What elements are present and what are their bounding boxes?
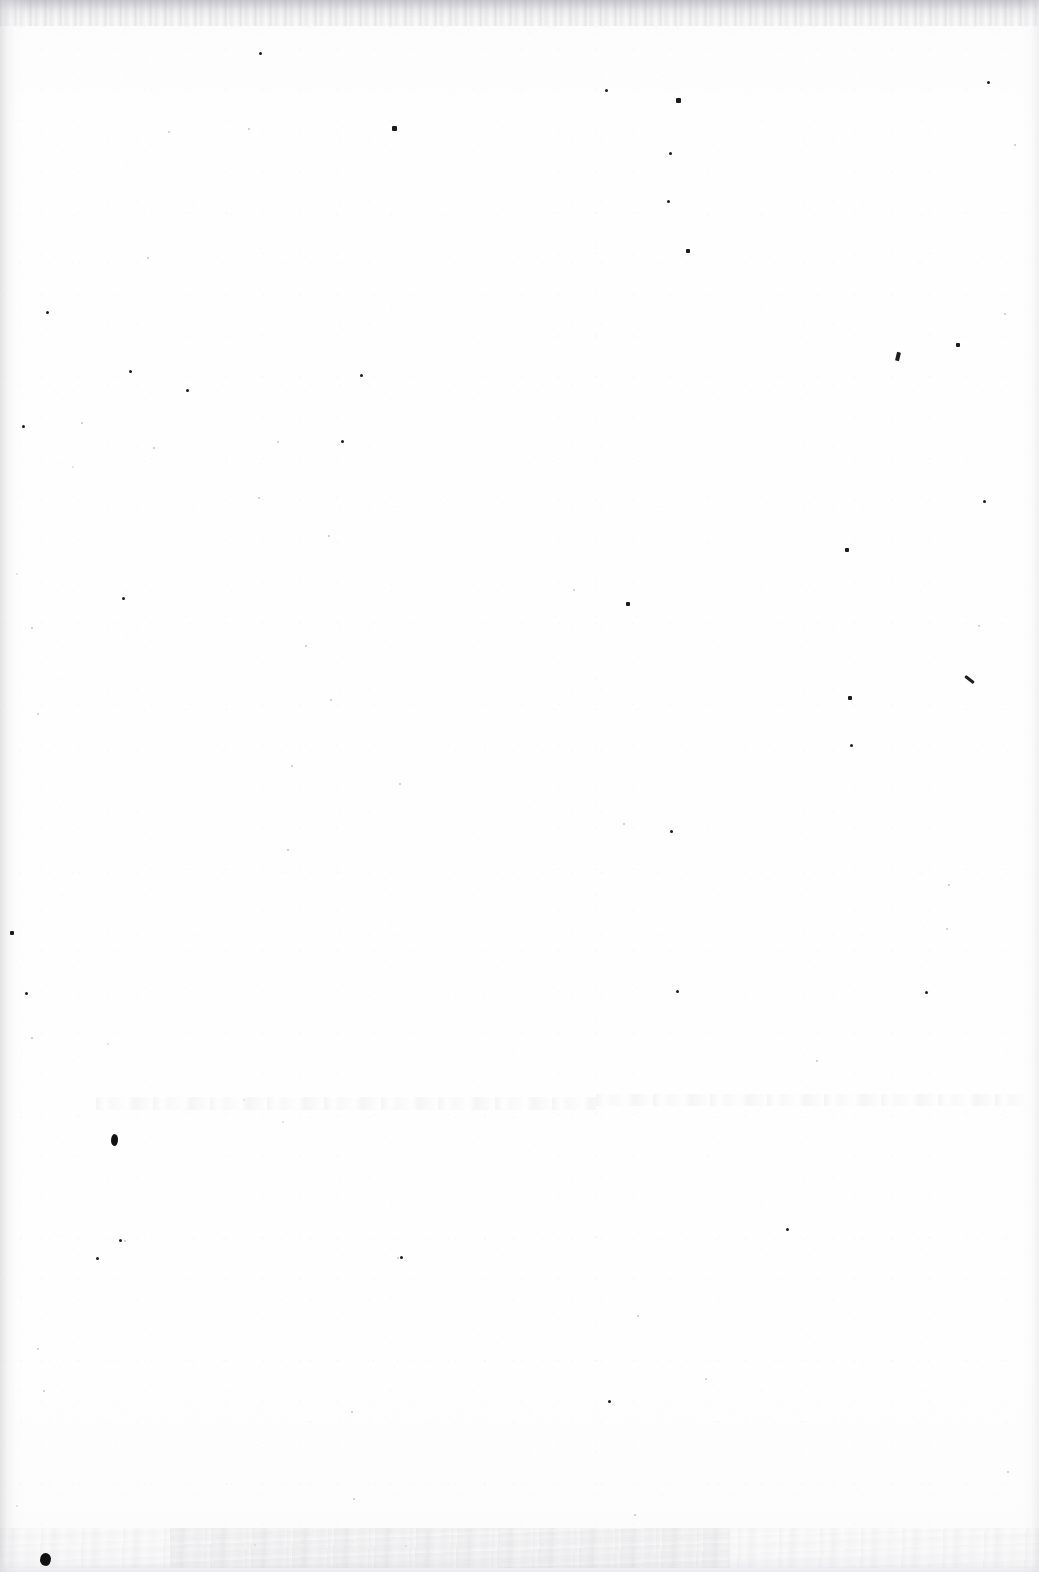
stain-band	[170, 1528, 730, 1568]
dust-speck	[623, 823, 625, 825]
dust-speck	[46, 311, 49, 314]
dust-speck	[16, 573, 18, 575]
dust-speck	[291, 765, 293, 767]
ink-blob	[111, 1134, 118, 1146]
dust-speck	[305, 645, 307, 647]
dust-speck	[254, 1544, 256, 1546]
dust-speck	[353, 1498, 355, 1500]
dust-speck	[392, 126, 397, 131]
dust-speck	[786, 1228, 789, 1231]
scan-edge-top	[0, 0, 1039, 26]
dust-speck	[399, 783, 401, 785]
dust-speck	[277, 441, 279, 443]
dust-speck	[119, 1239, 122, 1242]
dust-speck	[124, 1240, 126, 1242]
dust-speck	[705, 1378, 707, 1380]
dust-speck	[31, 1037, 33, 1039]
dust-speck	[258, 497, 260, 499]
dust-speck	[287, 849, 289, 851]
dust-speck	[397, 1257, 399, 1259]
dust-speck	[37, 713, 39, 715]
dust-speck	[248, 128, 250, 130]
dust-speck	[72, 466, 74, 468]
dust-speck	[845, 548, 849, 552]
dust-speck	[168, 131, 170, 133]
dust-speck	[243, 1099, 245, 1101]
ink-blob	[40, 1553, 51, 1566]
ghost-text-band	[596, 1094, 1026, 1106]
scan-edge-right	[1021, 0, 1039, 1572]
dust-speck	[186, 389, 189, 392]
dust-speck	[153, 447, 155, 449]
dust-speck	[626, 602, 630, 606]
dust-speck	[328, 535, 330, 537]
dust-speck	[282, 1121, 284, 1123]
dust-speck	[147, 257, 149, 259]
dust-speck	[400, 1256, 403, 1259]
dust-speck	[259, 52, 262, 55]
dust-speck	[676, 98, 681, 103]
dust-speck	[686, 249, 690, 253]
dust-speck	[16, 1505, 18, 1507]
dust-speck	[670, 830, 673, 833]
dust-speck	[31, 627, 33, 629]
scanned-page	[0, 0, 1039, 1572]
dust-speck	[634, 1514, 636, 1516]
dust-speck	[25, 992, 28, 995]
dust-speck	[925, 991, 928, 994]
paper-background	[0, 0, 1039, 1572]
scan-edge-left	[0, 0, 26, 1572]
dust-speck	[43, 1390, 45, 1392]
dust-speck	[22, 425, 25, 428]
dust-speck	[816, 1060, 818, 1062]
dust-speck	[129, 370, 132, 373]
dust-speck	[37, 1348, 39, 1350]
dust-speck	[330, 699, 332, 701]
dust-speck	[81, 422, 83, 424]
dust-speck	[850, 744, 853, 747]
dust-speck	[107, 1043, 109, 1045]
dust-speck	[983, 500, 986, 503]
dust-speck	[978, 625, 980, 627]
dust-speck	[96, 1257, 99, 1260]
ghost-text-band	[96, 1097, 596, 1110]
dust-speck	[351, 1411, 353, 1413]
dust-speck	[122, 597, 125, 600]
dust-speck	[669, 152, 672, 155]
dust-speck	[405, 1545, 407, 1547]
dust-speck	[608, 1400, 611, 1403]
dust-speck	[605, 89, 608, 92]
dust-speck	[573, 589, 575, 591]
dust-speck	[360, 374, 363, 377]
dust-speck	[667, 200, 670, 203]
dust-speck	[946, 928, 948, 930]
dust-speck	[1007, 1471, 1009, 1473]
dust-speck	[948, 884, 950, 886]
dust-speck	[676, 990, 679, 993]
dust-speck	[341, 440, 344, 443]
dust-speck	[1014, 144, 1016, 146]
dust-speck	[1004, 313, 1006, 315]
dust-speck	[987, 81, 990, 84]
dust-speck	[10, 931, 14, 935]
dust-speck	[956, 343, 960, 347]
dust-speck	[848, 696, 852, 700]
dust-speck	[637, 1315, 639, 1317]
